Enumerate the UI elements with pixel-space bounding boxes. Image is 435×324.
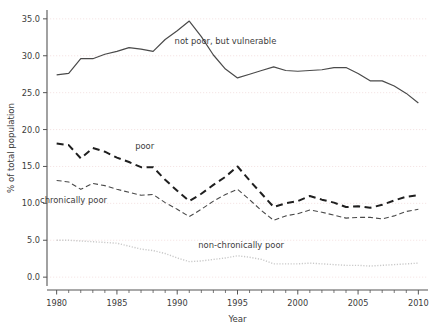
y-tick-label: 15.0: [22, 161, 40, 171]
x-tick-label: 1985: [107, 298, 128, 308]
y-tick-label: 30.0: [22, 51, 40, 61]
x-tick-label: 1995: [227, 298, 248, 308]
x-tick-label: 2010: [408, 298, 429, 308]
x-tick-label: 2000: [287, 298, 308, 308]
x-tick-label: 2005: [348, 298, 369, 308]
series-label-0: not poor, but vulnerable: [175, 36, 277, 46]
y-tick-label: 20.0: [22, 125, 40, 135]
y-tick-label: 10.0: [22, 198, 40, 208]
line-chart: 0.05.010.015.020.025.030.035.0 198019851…: [0, 0, 435, 324]
series-label-1: poor: [135, 141, 155, 151]
x-tick-label: 1980: [46, 298, 67, 308]
y-tick-label: 25.0: [22, 88, 40, 98]
chart-background: [0, 0, 435, 324]
x-tick-label: 1990: [167, 298, 188, 308]
series-label-2: chronically poor: [40, 195, 108, 205]
y-axis-title: % of total population: [6, 103, 16, 193]
y-tick-label: 35.0: [22, 14, 40, 24]
series-label-3: non-chronically poor: [198, 240, 284, 250]
y-tick-label: 5.0: [27, 235, 40, 245]
y-tick-label: 0.0: [27, 272, 40, 282]
chart-container: 0.05.010.015.020.025.030.035.0 198019851…: [0, 0, 435, 324]
x-axis-title: Year: [227, 314, 247, 324]
